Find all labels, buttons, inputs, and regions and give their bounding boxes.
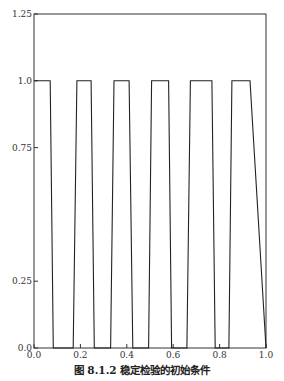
x-tick-label: 0.2: [73, 350, 87, 360]
x-tick-label: 0.4: [120, 350, 135, 360]
figure-caption: 图 8.1.2 稳定检验的初始条件: [0, 362, 284, 377]
y-tick-label: 1.25: [12, 9, 32, 19]
y-tick-label: 0.25: [12, 276, 32, 286]
x-tick-label: 0.6: [166, 350, 181, 360]
y-tick-label: 0.0: [18, 343, 33, 353]
y-tick-label: 0.75: [12, 143, 32, 153]
x-tick-label: 1.0: [259, 350, 274, 360]
x-tick-label: 0.8: [212, 350, 227, 360]
series-line: [34, 81, 266, 348]
pulse-chart: 0.00.20.40.60.81.00.00.250.751.01.25: [0, 0, 284, 381]
y-tick-label: 1.0: [18, 76, 33, 86]
